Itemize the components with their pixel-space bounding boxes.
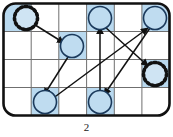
node-spiky-circle-right[interactable] (144, 63, 167, 86)
node-body (89, 91, 112, 114)
node-circle-bottom-left[interactable] (34, 91, 57, 114)
node-spiky-circle-top-left[interactable] (15, 7, 38, 30)
node-circle-top-mid[interactable] (89, 7, 112, 30)
node-circle-bottom-mid[interactable] (89, 91, 112, 114)
node-body (34, 91, 57, 114)
node-circle-top-right[interactable] (144, 7, 167, 30)
node-body (144, 7, 167, 30)
node-circle-upper-left-mid[interactable] (61, 35, 84, 58)
grid-board-diagram (0, 0, 173, 137)
figure-container: 2 (0, 0, 173, 137)
figure-caption: 2 (0, 118, 173, 137)
node-body (89, 7, 112, 30)
node-body (61, 35, 84, 58)
